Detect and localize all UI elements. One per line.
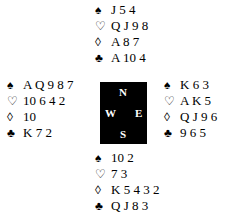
club-icon: ♣ [164,125,180,141]
diamond-icon: ◊ [7,109,23,125]
spade-icon: ♠ [95,150,111,166]
heart-icon: ♡ [7,93,23,109]
compass-north: N [119,86,127,98]
club-icon: ♣ [95,50,111,66]
heart-icon: ♡ [95,18,111,34]
south-spades: ♠10 2 [95,150,159,166]
club-icon: ♣ [7,125,23,141]
west-clubs: ♣K 7 2 [7,125,74,141]
north-clubs: ♣A 10 4 [95,50,148,66]
north-hearts: ♡Q J 9 8 [95,18,148,34]
south-hand: ♠10 2 ♡7 3 ◊K 5 4 3 2 ♣Q J 8 3 [95,150,159,214]
west-spades: ♠A Q 9 8 7 [7,77,74,93]
west-hearts: ♡10 6 4 2 [7,93,74,109]
east-spades: ♠K 6 3 [164,77,217,93]
diamond-icon: ◊ [95,34,111,50]
north-hand: ♠J 5 4 ♡Q J 9 8 ◊A 8 7 ♣A 10 4 [95,2,148,66]
north-diamonds: ◊A 8 7 [95,34,148,50]
east-diamonds: ◊Q J 9 6 [164,109,217,125]
diamond-icon: ◊ [95,182,111,198]
east-hand: ♠K 6 3 ♡A K 5 ◊Q J 9 6 ♣9 6 5 [164,77,217,141]
spade-icon: ♠ [95,2,111,18]
compass-table: N W E S [100,82,147,144]
spade-icon: ♠ [164,77,180,93]
compass-south: S [120,128,126,140]
heart-icon: ♡ [164,93,180,109]
south-hearts: ♡7 3 [95,166,159,182]
compass-west: W [105,107,116,119]
east-clubs: ♣9 6 5 [164,125,217,141]
south-diamonds: ◊K 5 4 3 2 [95,182,159,198]
compass-east: E [135,107,142,119]
heart-icon: ♡ [95,166,111,182]
spade-icon: ♠ [7,77,23,93]
diamond-icon: ◊ [164,109,180,125]
west-diamonds: ◊10 [7,109,74,125]
east-hearts: ♡A K 5 [164,93,217,109]
club-icon: ♣ [95,198,111,214]
west-hand: ♠A Q 9 8 7 ♡10 6 4 2 ◊10 ♣K 7 2 [7,77,74,141]
north-spades: ♠J 5 4 [95,2,148,18]
south-clubs: ♣Q J 8 3 [95,198,159,214]
